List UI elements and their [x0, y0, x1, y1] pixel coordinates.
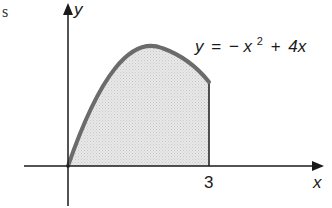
eq-lhs: y — [194, 37, 205, 56]
area-under-curve-diagram: s y x 3 y = − x 2 + 4x — [0, 0, 332, 208]
eq-var: x — [243, 37, 253, 56]
y-axis-label: y — [73, 0, 84, 19]
eq-equals: = — [211, 37, 221, 56]
x-axis-label: x — [312, 173, 322, 192]
x-tick-label-3: 3 — [204, 173, 213, 192]
eq-coef-term: 4x — [288, 37, 306, 56]
equation-label: y = − x 2 + 4x — [194, 30, 307, 56]
x-axis-arrow-icon — [312, 161, 324, 171]
eq-plus: + — [271, 37, 281, 56]
eq-minus: − — [229, 37, 239, 56]
corner-letter: s — [2, 3, 8, 20]
y-axis-arrow-icon — [63, 3, 73, 15]
eq-exponent: 2 — [257, 35, 263, 47]
